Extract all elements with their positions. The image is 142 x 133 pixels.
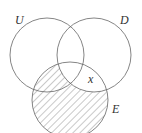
region-x-label: x xyxy=(87,72,94,86)
label-u: U xyxy=(15,13,25,27)
label-d: D xyxy=(119,13,129,27)
label-e: E xyxy=(111,102,120,116)
venn-diagram: U D E x xyxy=(0,0,142,133)
